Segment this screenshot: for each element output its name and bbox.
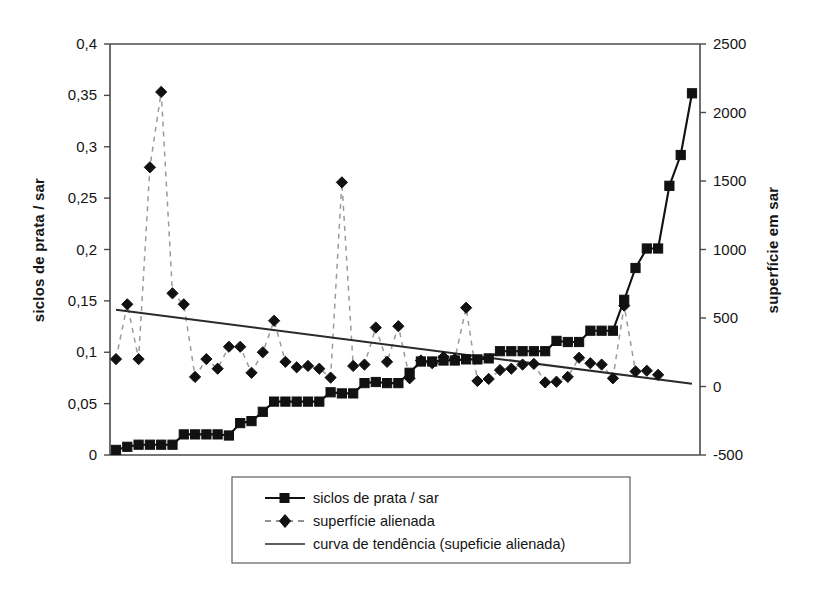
- right-tick-label: -500: [713, 446, 743, 463]
- data-point-siclos: [337, 389, 346, 398]
- data-point-superficie: [483, 373, 494, 384]
- data-point-siclos: [157, 440, 166, 449]
- data-point-superficie: [302, 360, 313, 371]
- data-point-siclos: [439, 356, 448, 365]
- data-point-siclos: [292, 397, 301, 406]
- left-tick-label: 0,25: [68, 189, 97, 206]
- chart-legend: siclos de prata / sar superfície alienad…: [232, 477, 630, 563]
- data-point-superficie: [641, 365, 652, 376]
- data-point-superficie: [461, 302, 472, 313]
- data-point-siclos: [123, 442, 132, 451]
- data-point-siclos: [315, 397, 324, 406]
- legend-marker-square-icon: [280, 494, 289, 503]
- data-point-superficie: [348, 360, 359, 371]
- data-point-siclos: [179, 430, 188, 439]
- data-point-siclos: [303, 397, 312, 406]
- left-tick-label: 0,2: [76, 241, 97, 258]
- data-point-superficie: [189, 371, 200, 382]
- data-point-siclos: [394, 379, 403, 388]
- right-axis-ticks: [700, 44, 706, 455]
- right-tick-label: 1000: [713, 241, 746, 258]
- legend-label-tendencia: curva de tendência (supeficie alienada): [313, 536, 565, 552]
- left-tick-label: 0,1: [76, 343, 97, 360]
- data-point-superficie: [156, 86, 167, 97]
- left-tick-label: 0,15: [68, 292, 97, 309]
- data-point-superficie: [144, 162, 155, 173]
- data-point-siclos: [111, 445, 120, 454]
- data-point-superficie: [133, 354, 144, 365]
- data-point-siclos: [281, 397, 290, 406]
- data-point-siclos: [541, 347, 550, 356]
- data-point-superficie: [506, 363, 517, 374]
- data-point-siclos: [371, 377, 380, 386]
- left-axis-title: siclos de prata / sar: [30, 178, 47, 322]
- chart-container: 00,050,10,150,20,250,30,350,4 -500050010…: [0, 0, 818, 589]
- data-point-siclos: [575, 337, 584, 346]
- data-point-siclos: [620, 295, 629, 304]
- data-point-siclos: [654, 244, 663, 253]
- data-point-superficie: [201, 354, 212, 365]
- data-point-superficie: [585, 358, 596, 369]
- data-point-siclos: [326, 388, 335, 397]
- data-point-superficie: [110, 354, 121, 365]
- siclos-de-prata-markers: [111, 89, 696, 455]
- data-point-siclos: [270, 397, 279, 406]
- data-point-superficie: [269, 315, 280, 326]
- data-point-superficie: [325, 372, 336, 383]
- data-point-siclos: [687, 89, 696, 98]
- data-point-superficie: [370, 322, 381, 333]
- data-point-siclos: [202, 430, 211, 439]
- plot-frame: [110, 44, 700, 455]
- data-point-superficie: [223, 341, 234, 352]
- right-tick-label: 0: [713, 378, 721, 395]
- data-point-siclos: [507, 347, 516, 356]
- data-point-siclos: [247, 417, 256, 426]
- data-point-siclos: [495, 347, 504, 356]
- left-axis-ticks: [104, 44, 110, 455]
- data-point-superficie: [528, 358, 539, 369]
- data-point-superficie: [562, 371, 573, 382]
- data-point-siclos: [563, 337, 572, 346]
- data-point-siclos: [642, 244, 651, 253]
- data-point-siclos: [450, 356, 459, 365]
- left-tick-label: 0,05: [68, 395, 97, 412]
- left-tick-label: 0: [89, 446, 97, 463]
- right-axis-title: superfície em sar: [764, 187, 781, 314]
- data-point-superficie: [246, 367, 257, 378]
- data-point-siclos: [552, 336, 561, 345]
- siclos-de-prata-line: [116, 93, 692, 450]
- data-point-siclos: [416, 357, 425, 366]
- data-point-siclos: [258, 407, 267, 416]
- data-point-siclos: [405, 368, 414, 377]
- data-point-siclos: [224, 431, 233, 440]
- data-point-siclos: [360, 379, 369, 388]
- legend-label-siclos: siclos de prata / sar: [313, 490, 439, 506]
- data-point-siclos: [168, 440, 177, 449]
- data-point-siclos: [665, 181, 674, 190]
- curva-de-tendencia-line: [116, 310, 692, 384]
- data-point-superficie: [393, 321, 404, 332]
- data-point-siclos: [236, 419, 245, 428]
- data-point-siclos: [428, 357, 437, 366]
- plot-data-layer: [110, 86, 696, 454]
- data-point-superficie: [336, 177, 347, 188]
- right-tick-label: 500: [713, 309, 738, 326]
- data-point-superficie: [167, 288, 178, 299]
- left-tick-label: 0,4: [76, 35, 97, 52]
- data-point-superficie: [596, 359, 607, 370]
- data-point-siclos: [631, 263, 640, 272]
- data-point-siclos: [145, 440, 154, 449]
- data-point-siclos: [134, 440, 143, 449]
- data-point-superficie: [573, 352, 584, 363]
- data-point-siclos: [462, 355, 471, 364]
- right-tick-label: 1500: [713, 172, 746, 189]
- data-point-superficie: [540, 377, 551, 388]
- data-point-siclos: [383, 379, 392, 388]
- data-point-siclos: [518, 347, 527, 356]
- right-tick-label: 2500: [713, 35, 746, 52]
- data-point-superficie: [551, 376, 562, 387]
- right-axis-tick-labels: -50005001000150020002500: [713, 35, 746, 463]
- data-point-siclos: [676, 150, 685, 159]
- data-point-superficie: [235, 341, 246, 352]
- left-tick-label: 0,35: [68, 86, 97, 103]
